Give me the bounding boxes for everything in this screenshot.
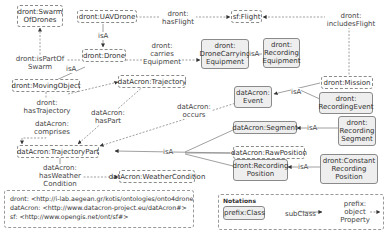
notations-legend: Notations prefix:Class subClass prefix: … — [218, 194, 384, 230]
node-drone[interactable]: dront:Drone — [82, 49, 126, 62]
label-isa-recpos: isA — [298, 163, 308, 171]
node-recording-event[interactable]: dront: RecordingEvent — [319, 92, 373, 114]
ontology-diagram: dront:Swarm OfDrones dront:UAVDrone sf:F… — [0, 0, 388, 234]
notation-class-example: prefix:Class — [223, 206, 265, 220]
namespace-dront: dront: <http://i-lab.aegean.gr/kotis/ont… — [10, 194, 188, 203]
label-comprises: datAcron: comprises — [32, 120, 72, 136]
node-trajectory-part[interactable]: datAcron:TrajectoryPart — [17, 145, 99, 158]
edge-recpos-isa — [185, 154, 233, 166]
label-occurs: datAcron: occurs — [176, 103, 212, 119]
label-has-weather-condition: datAcron: hasWeather Condition — [38, 164, 82, 188]
namespace-sf: sf: <http://www.opengis.net/ont/sf#> — [10, 212, 188, 221]
label-includes-flight: dront: includesFlight — [325, 12, 377, 28]
node-mission[interactable]: dront:Mission — [321, 76, 373, 89]
node-raw-position[interactable]: datAcron:RawPosition — [233, 146, 305, 159]
namespace-datacron: datAcron: <http://www.datacron-project.e… — [10, 203, 188, 212]
label-isa-segment: isA — [307, 124, 317, 132]
node-segment[interactable]: datAcron:Segment — [233, 121, 297, 134]
label-has-part: datAcron: hasPart — [88, 109, 128, 125]
label-has-trajectory: dront: hasTrajectory — [22, 99, 72, 115]
notation-subclass-label: subClass — [285, 210, 316, 218]
notation-property-label: prefix: object Property — [337, 200, 373, 224]
node-drone-carrying-equipment[interactable]: dront: DroneCarrying Equipment — [201, 39, 249, 69]
node-moving-object[interactable]: dront:MovingObject — [12, 79, 80, 92]
label-is-part-of-swarm: dront:isPartOf Swarm — [14, 55, 66, 71]
label-isa-event: isA — [291, 88, 301, 96]
node-swarm-of-drones[interactable]: dront:Swarm OfDrones — [17, 5, 63, 27]
node-sf-flight[interactable]: sf:Flight — [231, 10, 262, 23]
node-constant-recording-position[interactable]: dront:Constant Recording Position — [320, 154, 378, 184]
node-trajectory[interactable]: datAcron:Trajectory — [118, 75, 186, 88]
edge-segment-isa — [185, 130, 233, 152]
node-event[interactable]: datAcron: Event — [234, 86, 272, 108]
notations-title: Notations — [223, 197, 256, 204]
node-weather-condition[interactable]: datAcron:WeatherCondition — [119, 170, 195, 183]
node-recording-position[interactable]: dront:Recording Position — [233, 159, 288, 181]
label-isa-recequip: isA — [249, 50, 259, 58]
label-has-flight: dront: hasFlight — [160, 10, 196, 26]
label-isa-drone-moving: isA — [66, 65, 76, 73]
node-recording-equipment[interactable]: dront: Recording Equipment — [263, 38, 300, 68]
label-isa-trajpart: isA — [163, 148, 173, 156]
node-recording-segment[interactable]: dront: Recording Segment — [338, 116, 376, 146]
namespace-box: dront: <http://i-lab.aegean.gr/kotis/ont… — [4, 190, 194, 228]
label-carries-equipment: dront: carries Equipment — [142, 42, 182, 66]
node-uav-drone[interactable]: dront:UAVDrone — [77, 10, 137, 23]
label-isa-uav: isA — [98, 32, 108, 40]
